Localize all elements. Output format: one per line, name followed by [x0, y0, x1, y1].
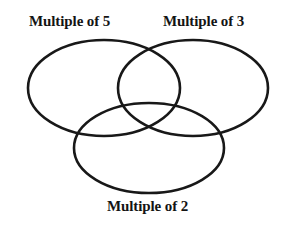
set-label-multiple-of-2: Multiple of 2 — [0, 199, 295, 214]
set-circle-multiple-of-2[interactable] — [74, 103, 224, 193]
venn-diagram-canvas: Multiple of 5 Multiple of 3 Multiple of … — [0, 0, 295, 225]
set-circle-multiple-of-5[interactable] — [28, 40, 180, 136]
set-label-multiple-of-5: Multiple of 5 — [29, 14, 110, 29]
set-circle-multiple-of-3[interactable] — [118, 40, 268, 136]
set-label-multiple-of-3: Multiple of 3 — [163, 14, 244, 29]
venn-diagram-svg — [0, 0, 295, 225]
